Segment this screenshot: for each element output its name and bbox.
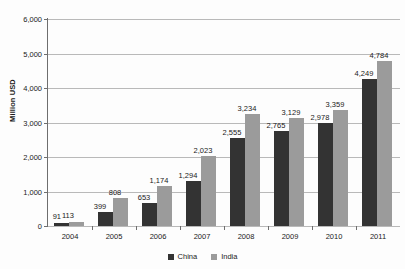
y-tick-mark [44,157,47,158]
x-tick-label-2008: 2008 [224,232,268,241]
bar-value-label: 1,174 [144,176,174,185]
bar-group: 2,7653,129 [268,19,312,226]
bar-china-2004 [54,223,69,226]
x-tick-mark [180,226,181,230]
x-tick-label-2009: 2009 [268,232,312,241]
x-tick-label-2004: 2004 [48,232,92,241]
bar-india-2006 [157,186,172,227]
x-tick-label-2011: 2011 [356,232,400,241]
x-tick-mark [312,226,313,230]
y-tick-label: 5,000 [2,50,42,59]
y-tick-mark [44,192,47,193]
bar-value-label: 2,765 [261,121,291,130]
x-tick-mark [356,226,357,230]
bar-value-label: 653 [129,193,159,202]
x-tick-label-2010: 2010 [312,232,356,241]
x-tick-mark [136,226,137,230]
x-tick-mark [92,226,93,230]
bar-value-label: 399 [85,202,115,211]
legend-label: China [178,252,198,261]
bar-value-label: 1,294 [173,171,203,180]
y-tick-label: 4,000 [2,84,42,93]
bar-india-2005 [113,198,128,226]
legend-label: India [221,252,237,261]
legend-swatch-icon [211,254,217,260]
bar-group: 91113 [48,19,92,226]
chart-legend: ChinaIndia [0,252,405,261]
y-tick-label: 3,000 [2,119,42,128]
bar-value-label: 3,359 [320,100,350,109]
bar-china-2007 [186,181,201,226]
bar-china-2009 [274,131,289,226]
y-axis-title: Million USD [8,61,17,141]
bar-value-label: 808 [100,188,130,197]
bar-china-2008 [230,138,245,226]
bar-value-label: 2,023 [188,146,218,155]
bar-value-label: 2,555 [217,128,247,137]
bar-group: 4,2494,784 [356,19,400,226]
bar-india-2007 [201,156,216,226]
y-tick-mark [44,88,47,89]
bar-china-2010 [318,123,333,226]
bar-chart-figure: Million USD 6,0005,0004,0003,0002,0001,0… [0,0,405,269]
y-tick-label: 6,000 [2,15,42,24]
y-tick-label: 1,000 [2,188,42,197]
y-tick-mark [44,123,47,124]
bar-value-label: 3,234 [232,104,262,113]
bar-india-2008 [245,114,260,226]
bar-value-label: 4,784 [364,51,394,60]
bar-value-label: 3,129 [276,108,306,117]
legend-swatch-icon [168,254,174,260]
bar-value-label: 113 [62,211,84,220]
bar-group: 1,2942,023 [180,19,224,226]
bar-group: 6531,174 [136,19,180,226]
bar-china-2011 [362,79,377,226]
legend-item-china[interactable]: China [168,252,198,261]
bar-value-label: 4,249 [349,69,379,78]
bar-india-2009 [289,118,304,226]
bar-china-2005 [98,212,113,226]
x-tick-label-2005: 2005 [92,232,136,241]
y-tick-label: 0 [2,222,42,231]
y-tick-mark [44,19,47,20]
x-tick-mark [268,226,269,230]
x-tick-label-2006: 2006 [136,232,180,241]
bar-china-2006 [142,203,157,226]
bar-india-2010 [333,110,348,226]
y-tick-mark [44,226,47,227]
x-tick-label-2007: 2007 [180,232,224,241]
x-tick-mark [224,226,225,230]
y-tick-mark [44,54,47,55]
bar-value-label: 91 [39,212,61,221]
bar-india-2011 [377,61,392,226]
bar-value-label: 2,978 [305,113,335,122]
bar-group: 2,9783,359 [312,19,356,226]
bars-layer: 911133998086531,1741,2942,0232,5553,2342… [48,19,400,226]
legend-item-india[interactable]: India [211,252,237,261]
y-tick-label: 2,000 [2,153,42,162]
bar-india-2004 [69,222,84,226]
